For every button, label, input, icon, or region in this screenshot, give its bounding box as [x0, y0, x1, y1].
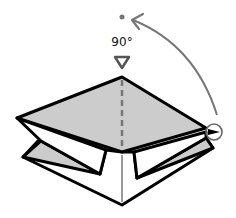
- push-triangle-icon: [115, 57, 129, 68]
- origami-diagram: 90°: [0, 0, 236, 218]
- target-dot-icon: [120, 15, 125, 20]
- point-arrow-icon: [208, 129, 220, 135]
- angle-label: 90°: [111, 35, 132, 49]
